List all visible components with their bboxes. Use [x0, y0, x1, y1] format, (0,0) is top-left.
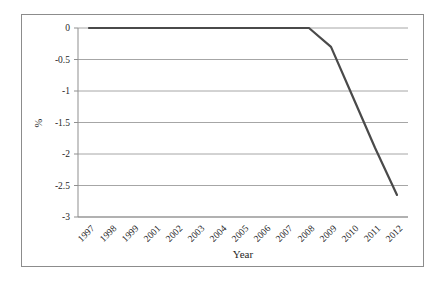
- x-tick-label: 2004: [208, 223, 229, 244]
- x-tick-label: 2007: [274, 223, 295, 244]
- x-axis-title: Year: [233, 248, 254, 260]
- x-tick-label: 2010: [340, 223, 361, 244]
- x-tick-label: 2009: [318, 223, 339, 244]
- y-tick-label: -1.5: [55, 118, 70, 128]
- x-tick-label: 1997: [76, 223, 97, 244]
- y-tick-label: -1: [62, 86, 70, 96]
- data-series: [89, 28, 397, 195]
- x-tick-label: 1999: [120, 223, 141, 244]
- y-tick-label: -2.5: [55, 181, 70, 191]
- y-tick-label: -3: [62, 212, 70, 222]
- x-tick-label: 1998: [98, 223, 119, 244]
- line-chart: 0-0.5-1-1.5-2-2.5-3 19971998199920012002…: [22, 15, 423, 266]
- y-tick-labels: 0-0.5-1-1.5-2-2.5-3: [55, 23, 70, 222]
- x-tick-label: 2012: [384, 223, 405, 244]
- x-tick-label: 2008: [296, 223, 317, 244]
- y-tick-label: 0: [65, 23, 70, 33]
- x-tick-label: 2003: [186, 223, 207, 244]
- x-tick-label: 2001: [142, 223, 163, 244]
- x-tick-label: 2006: [252, 223, 273, 244]
- x-tick-label: 2005: [230, 223, 251, 244]
- x-tick-label: 2011: [362, 223, 382, 243]
- y-tick-label: -0.5: [55, 55, 70, 65]
- y-tick-label: -2: [62, 149, 70, 159]
- y-axis-title: %: [33, 118, 44, 127]
- chart-figure: 0-0.5-1-1.5-2-2.5-3 19971998199920012002…: [21, 14, 424, 267]
- data-series-line: [89, 28, 397, 195]
- gridlines: [78, 28, 408, 217]
- x-tick-label: 2002: [164, 223, 185, 244]
- x-tick-labels: 1997199819992001200220032004200520062007…: [76, 223, 405, 244]
